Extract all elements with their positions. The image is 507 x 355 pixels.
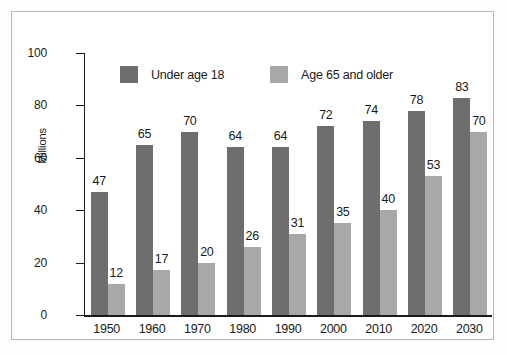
bar-age-65-older: 12 [108,284,125,315]
y-tick-label: 40 [34,204,47,216]
bar-age-65-older: 53 [425,176,442,315]
x-tick-label: 2000 [311,322,356,336]
bar-value-label: 78 [410,94,423,107]
bar-value-label: 64 [229,130,242,143]
bar-under-18: 64 [272,147,289,315]
x-tick-label: 1980 [220,322,265,336]
bar-value-label: 12 [110,267,123,280]
bar-value-label: 20 [200,246,213,259]
bar-value-label: 17 [155,253,168,266]
bar-age-65-older: 20 [198,263,215,315]
x-tick-label: 1990 [265,322,310,336]
bar-value-label: 64 [274,130,287,143]
bar-under-18: 78 [408,111,425,315]
bar-value-label: 70 [183,115,196,128]
bar-group: 8370 [453,53,487,315]
bar-under-18: 47 [91,192,108,315]
bar-group: 7020 [181,53,215,315]
bar-group: 7235 [317,53,351,315]
bar-under-18: 65 [136,145,153,315]
bar-age-65-older: 35 [334,223,351,315]
y-tick-label: 20 [34,257,47,269]
bar-groups: 471265177020642664317235744078538370 [84,53,492,315]
x-tick-label: 2030 [447,322,492,336]
bar-group: 7440 [363,53,397,315]
y-tick-label: 0 [41,309,47,321]
bar-value-label: 74 [365,104,378,117]
x-tick-label: 2020 [401,322,446,336]
y-tick-label: 100 [28,47,47,59]
bar-under-18: 83 [453,98,470,315]
bar-age-65-older: 26 [244,247,261,315]
x-tick-label: 1960 [129,322,174,336]
bar-group: 6517 [136,53,170,315]
bar-value-label: 70 [472,115,485,128]
bar-group: 6426 [227,53,261,315]
x-tick-label: 2010 [356,322,401,336]
x-tick-label: 1970 [175,322,220,336]
bar-age-65-older: 31 [289,234,306,315]
bar-value-label: 53 [427,159,440,172]
chart-frame: Millions 020406080100 Under age 18 Age 6… [11,11,494,340]
bar-value-label: 72 [319,109,332,122]
bar-under-18: 64 [227,147,244,315]
bar-group: 4712 [91,53,125,315]
bar-age-65-older: 17 [153,270,170,315]
bar-age-65-older: 40 [380,210,397,315]
bar-value-label: 65 [138,128,151,141]
y-tick-label: 80 [34,99,47,111]
x-axis-line [84,315,492,317]
x-axis-labels: 195019601970198019902000201020202030 [84,322,492,342]
bar-value-label: 26 [246,230,259,243]
y-tick-label: 60 [34,152,47,164]
x-tick-label: 1950 [84,322,129,336]
bar-value-label: 40 [382,193,395,206]
bar-under-18: 70 [181,132,198,315]
bar-group: 6431 [272,53,306,315]
bar-value-label: 47 [93,175,106,188]
bar-under-18: 72 [317,126,334,315]
bar-value-label: 35 [336,206,349,219]
bar-age-65-older: 70 [470,132,487,315]
bar-under-18: 74 [363,121,380,315]
chart-screenshot: Millions 020406080100 Under age 18 Age 6… [0,0,507,355]
bar-group: 7853 [408,53,442,315]
bar-value-label: 83 [455,81,468,94]
bar-value-label: 31 [291,217,304,230]
y-tick-mark [76,315,85,316]
